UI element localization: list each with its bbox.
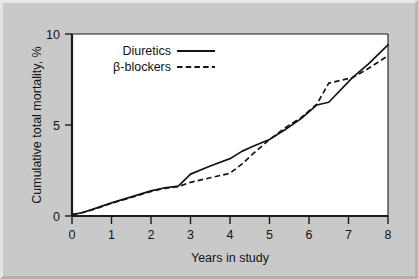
y-tick-label-0: 0: [53, 210, 60, 224]
y-tick-label-5: 5: [53, 119, 60, 133]
legend-label-diuretics: Diuretics: [122, 44, 171, 58]
y-tick-label-10: 10: [46, 28, 60, 42]
x-tick-label-6: 6: [306, 228, 313, 242]
x-tick-label-3: 3: [187, 228, 194, 242]
x-tick-label-7: 7: [345, 228, 352, 242]
figure-panel: 0 5 10 0 1 2 3 4 5 6 7 8 Years in study …: [0, 0, 418, 279]
y-axis-title: Cumulative total mortality, %: [30, 46, 44, 203]
mortality-line-chart: 0 5 10 0 1 2 3 4 5 6 7 8 Years in study …: [3, 3, 418, 279]
x-axis-ticks: [72, 216, 388, 224]
x-tick-label-0: 0: [69, 228, 76, 242]
x-axis-title: Years in study: [191, 251, 270, 265]
x-tick-label-1: 1: [108, 228, 115, 242]
legend-label-beta-blockers: β-blockers: [113, 60, 171, 74]
x-tick-label-4: 4: [227, 228, 234, 242]
x-tick-label-5: 5: [266, 228, 273, 242]
x-tick-label-2: 2: [148, 228, 155, 242]
x-tick-label-8: 8: [385, 228, 392, 242]
